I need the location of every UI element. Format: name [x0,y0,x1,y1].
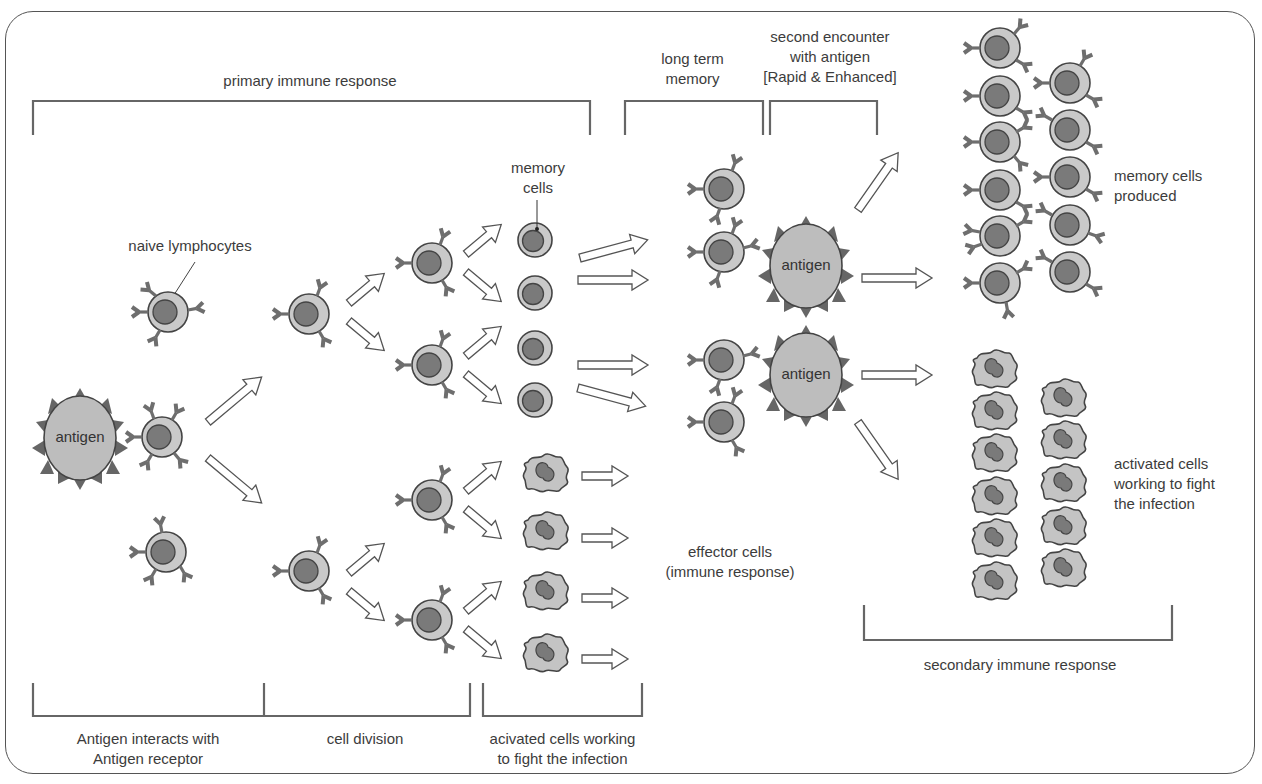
secondary-immune-response-label: secondary immune response [900,655,1140,675]
second-encounter-label: second encounter with antigen [Rapid & E… [740,27,920,87]
memory-cells-produced [963,19,1104,319]
naive-lymphocyte-bottom [130,516,192,585]
activated-cells-bottom-label: acivated cells working to fight the infe… [470,729,655,769]
memory-cells-label: memory cells [500,158,576,198]
antigen-secondary-bottom [758,325,854,427]
activated-cells-right-label: activated cells working to fight the inf… [1114,454,1254,514]
memory-cells-produced-label: memory cells produced [1114,166,1244,206]
primary-immune-response-label: primary immune response [160,71,460,91]
antigen-secondary-top [758,216,854,318]
naive-lymphocyte-middle [126,402,188,470]
effector-cells-label: effector cells (immune response) [645,542,815,582]
antigen-interacts-label: Antigen interacts with Antigen receptor [48,729,248,769]
naive-lymphocytes-label: naive lymphocytes [95,236,285,256]
activated-cells-right [972,350,1086,600]
long-term-memory-label: long term memory [630,49,755,89]
antigen-primary [32,388,128,490]
cell-division-label: cell division [290,729,440,749]
naive-lymphocyte-top [132,282,205,346]
